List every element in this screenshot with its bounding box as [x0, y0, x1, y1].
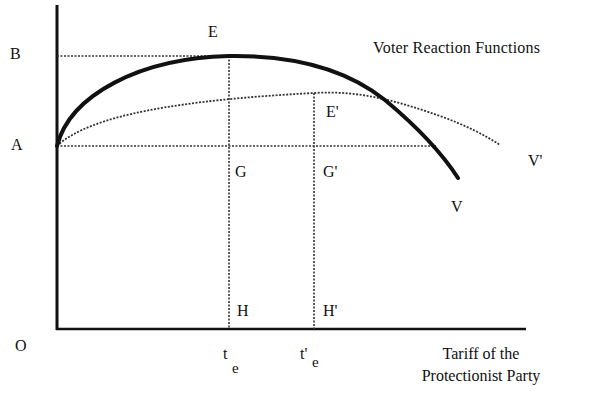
tick-te: t [223, 346, 227, 362]
tick-te-prime: t' [300, 346, 307, 362]
label-curve-V: V [451, 199, 463, 215]
curve-V-prime [57, 93, 500, 146]
label-H-prime: H' [323, 303, 337, 319]
label-curve-V-prime: V' [528, 153, 542, 169]
tick-te-prime-main: t' [300, 345, 307, 362]
tick-te-subscript: e [232, 360, 239, 377]
x-axis-label-line2: Protectionist Party [396, 365, 566, 387]
label-origin: O [15, 338, 27, 354]
diagram-title: Voter Reaction Functions [373, 40, 540, 56]
tick-te-prime-subscript: e [312, 354, 319, 371]
label-G-prime: G' [323, 164, 337, 180]
label-E-prime: E' [326, 104, 339, 120]
label-E: E [208, 24, 218, 40]
label-A: A [11, 137, 23, 153]
tick-te-main: t [223, 345, 227, 362]
x-axis-label: Tariff of the Protectionist Party [396, 343, 566, 387]
label-G: G [235, 164, 247, 180]
x-axis-label-line1: Tariff of the [396, 343, 566, 365]
diagram-canvas [0, 0, 596, 393]
label-B: B [10, 46, 21, 62]
label-H: H [237, 303, 249, 319]
